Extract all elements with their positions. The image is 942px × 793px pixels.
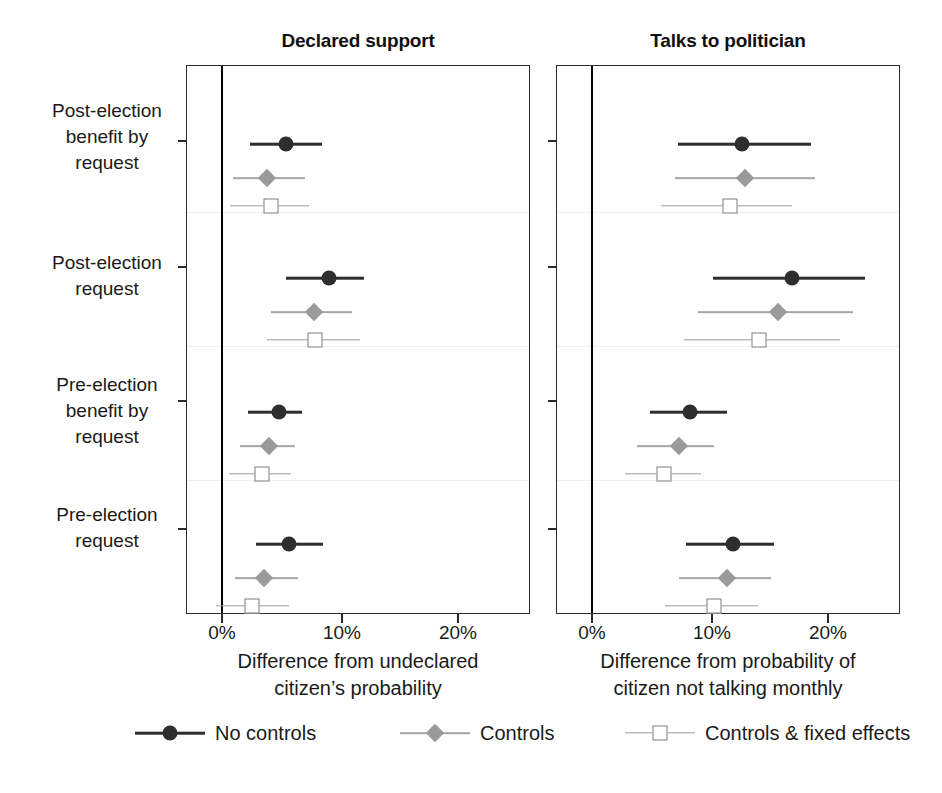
- y-category-line: benefit by: [22, 124, 192, 150]
- diamond-marker-icon: [718, 569, 736, 587]
- estimate-row: [187, 133, 531, 155]
- estimate-row: [557, 195, 901, 217]
- legend-swatch-circle: [135, 723, 205, 743]
- estimate-row: [187, 301, 531, 323]
- y-category-line: request: [22, 150, 192, 176]
- x-tick-label-0pct-right: 0%: [552, 622, 632, 644]
- y-category-label-post-election-benefit-by-request: Post-election benefit by request: [22, 98, 192, 176]
- circle-marker-icon: [784, 271, 799, 286]
- estimate-row: [187, 463, 531, 485]
- estimate-row: [557, 133, 901, 155]
- estimate-row: [557, 329, 901, 351]
- diamond-marker-icon: [305, 303, 323, 321]
- diamond-marker-icon: [769, 303, 787, 321]
- estimate-row: [557, 167, 901, 189]
- circle-marker-icon: [734, 137, 749, 152]
- open-square-marker-icon: [263, 199, 278, 214]
- estimate-row: [187, 167, 531, 189]
- estimate-row: [187, 267, 531, 289]
- legend-swatch-diamond: [400, 723, 470, 743]
- y-category-line: benefit by: [22, 398, 192, 424]
- diamond-marker-icon: [258, 169, 276, 187]
- estimate-row: [187, 435, 531, 457]
- y-category-line: Pre-election: [22, 502, 192, 528]
- estimate-row: [557, 435, 901, 457]
- x-tick-label-20pct-left: 20%: [418, 622, 498, 644]
- legend-item-controls: Controls: [400, 716, 554, 750]
- x-tick-label-0pct-left: 0%: [182, 622, 262, 644]
- x-axis-title-line: citizen not talking monthly: [548, 675, 908, 702]
- estimate-row: [557, 463, 901, 485]
- estimate-row: [557, 595, 901, 617]
- estimate-row: [187, 567, 531, 589]
- y-category-line: Post-election: [22, 98, 192, 124]
- estimate-row: [557, 533, 901, 555]
- y-category-line: request: [22, 424, 192, 450]
- diamond-marker-icon: [426, 724, 444, 742]
- estimate-row: [187, 401, 531, 423]
- y-category-line: request: [22, 276, 192, 302]
- legend-label: Controls & fixed effects: [705, 722, 910, 745]
- legend-label: No controls: [215, 722, 316, 745]
- y-category-label-post-election-request: Post-election request: [22, 250, 192, 302]
- legend: No controls Controls Controls & fixed ef…: [0, 716, 942, 756]
- y-category-line: Post-election: [22, 250, 192, 276]
- y-category-line: request: [22, 528, 192, 554]
- coefficient-plot-figure: Declared support Talks to politician Pos…: [0, 0, 942, 793]
- estimate-row: [557, 401, 901, 423]
- diamond-marker-icon: [670, 437, 688, 455]
- open-square-marker-icon: [752, 333, 767, 348]
- legend-item-no-controls: No controls: [135, 716, 316, 750]
- panel-title-declared-support: Declared support: [186, 30, 530, 52]
- diamond-marker-icon: [259, 437, 277, 455]
- circle-marker-icon: [725, 537, 740, 552]
- y-category-label-pre-election-request: Pre-election request: [22, 502, 192, 554]
- estimate-row: [557, 267, 901, 289]
- estimate-row: [187, 595, 531, 617]
- plot-panel-talks-to-politician: [556, 65, 900, 614]
- x-axis-title-left: Difference from undeclared citizen’s pro…: [178, 648, 538, 702]
- estimate-row: [187, 195, 531, 217]
- open-square-marker-icon: [657, 467, 672, 482]
- legend-swatch-square: [625, 723, 695, 743]
- y-category-line: Pre-election: [22, 372, 192, 398]
- estimate-row: [557, 567, 901, 589]
- x-tick-label-10pct-right: 10%: [672, 622, 752, 644]
- x-axis-title-line: Difference from probability of: [548, 648, 908, 675]
- open-square-marker-icon: [307, 333, 322, 348]
- diamond-marker-icon: [736, 169, 754, 187]
- circle-marker-icon: [272, 405, 287, 420]
- x-tick-label-10pct-left: 10%: [302, 622, 382, 644]
- circle-marker-icon: [278, 137, 293, 152]
- open-square-marker-icon: [254, 467, 269, 482]
- y-category-label-pre-election-benefit-by-request: Pre-election benefit by request: [22, 372, 192, 450]
- open-square-marker-icon: [245, 599, 260, 614]
- circle-marker-icon: [321, 271, 336, 286]
- x-tick-label-20pct-right: 20%: [788, 622, 868, 644]
- plot-panel-declared-support: [186, 65, 530, 614]
- circle-marker-icon: [282, 537, 297, 552]
- diamond-marker-icon: [255, 569, 273, 587]
- estimate-row: [557, 301, 901, 323]
- x-axis-title-line: Difference from undeclared: [178, 648, 538, 675]
- x-axis-title-right: Difference from probability of citizen n…: [548, 648, 908, 702]
- circle-marker-icon: [682, 405, 697, 420]
- open-square-marker-icon: [706, 599, 721, 614]
- legend-item-controls-fixed-effects: Controls & fixed effects: [625, 716, 910, 750]
- x-axis-title-line: citizen’s probability: [178, 675, 538, 702]
- estimate-row: [187, 533, 531, 555]
- panel-title-talks-to-politician: Talks to politician: [556, 30, 900, 52]
- legend-label: Controls: [480, 722, 554, 745]
- estimate-row: [187, 329, 531, 351]
- open-square-marker-icon: [723, 199, 738, 214]
- open-square-marker-icon: [653, 726, 668, 741]
- circle-marker-icon: [163, 726, 178, 741]
